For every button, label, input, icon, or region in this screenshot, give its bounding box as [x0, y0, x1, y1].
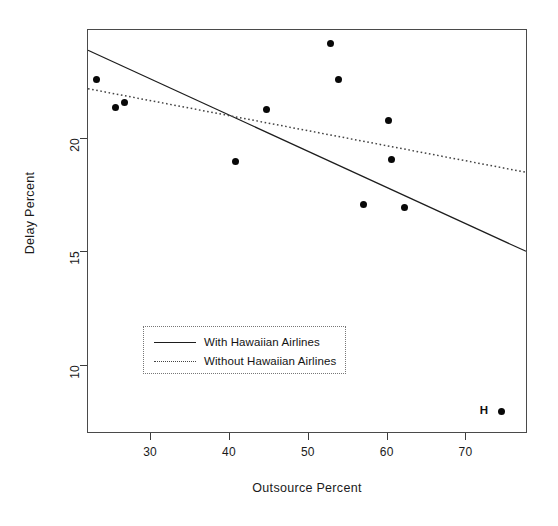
x-axis-label: Outsource Percent: [252, 481, 361, 495]
x-tick-label: 30: [143, 445, 157, 459]
legend-label-without-hawaiian: Without Hawaiian Airlines: [204, 355, 336, 367]
legend-entry-with-hawaiian: With Hawaiian Airlines: [144, 332, 345, 351]
x-tick-mark: [387, 433, 388, 440]
data-point: [121, 99, 128, 106]
legend-box: With Hawaiian Airlines Without Hawaiian …: [143, 326, 346, 374]
x-tick-label: 60: [380, 445, 394, 459]
x-tick-label: 40: [222, 445, 236, 459]
y-tick-label: 10: [68, 365, 82, 379]
x-tick-mark: [308, 433, 309, 440]
legend-entry-without-hawaiian: Without Hawaiian Airlines: [144, 351, 345, 370]
data-point: [401, 204, 408, 211]
data-point: [498, 408, 505, 415]
data-point: [112, 104, 119, 111]
regression-line-without-hawaiian: [88, 89, 526, 173]
x-tick-mark: [465, 433, 466, 440]
y-axis-label: Delay Percent: [23, 172, 37, 254]
point-annotation-hawaiian: H: [480, 404, 488, 416]
data-point: [388, 156, 395, 163]
y-tick-label: 15: [68, 251, 82, 265]
x-tick-mark: [150, 433, 151, 440]
scatter-plot-figure: Delay Percent Outsource Percent 101520 3…: [0, 0, 558, 526]
y-tick-label: 20: [68, 138, 82, 152]
x-tick-label: 70: [459, 445, 473, 459]
solid-line-key-icon: [154, 337, 196, 347]
x-tick-mark: [229, 433, 230, 440]
regression-line-with-hawaiian: [88, 50, 526, 251]
dotted-line-key-icon: [154, 356, 196, 366]
x-tick-label: 50: [301, 445, 315, 459]
legend-label-with-hawaiian: With Hawaiian Airlines: [204, 336, 320, 348]
